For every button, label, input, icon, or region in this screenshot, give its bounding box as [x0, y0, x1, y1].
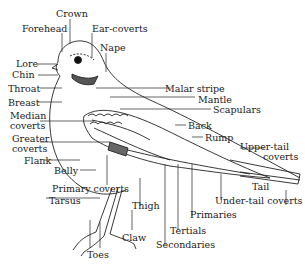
label-crown: Crown	[56, 9, 88, 19]
label-toes: Toes	[87, 250, 109, 260]
label-median-coverts-2: coverts	[10, 121, 45, 131]
label-primary-coverts: Primary coverts	[52, 184, 129, 194]
label-under-tail-coverts: Under-tail coverts	[215, 196, 302, 206]
label-greater-coverts-2: coverts	[12, 144, 47, 154]
label-nape: Nape	[100, 43, 126, 53]
label-chin: Chin	[12, 70, 35, 80]
label-secondaries: Secondaries	[156, 240, 215, 250]
label-scapulars: Scapulars	[213, 105, 261, 115]
label-upper-tail-coverts-2: coverts	[263, 152, 298, 162]
label-back: Back	[188, 121, 212, 131]
label-ear-coverts: Ear-coverts	[92, 24, 148, 34]
label-throat: Throat	[8, 84, 40, 94]
label-breast: Breast	[8, 98, 40, 108]
label-tarsus: Tarsus	[49, 196, 81, 206]
label-tail: Tail	[252, 182, 269, 192]
label-belly: Belly	[54, 166, 78, 176]
label-forehead: Forehead	[22, 24, 67, 34]
label-claw: Claw	[122, 233, 146, 243]
label-malar-stripe: Malar stripe	[165, 84, 225, 94]
label-rump: Rump	[205, 133, 233, 143]
label-thigh: Thigh	[132, 201, 160, 211]
label-flank: Flank	[24, 156, 51, 166]
label-lore: Lore	[16, 59, 38, 69]
label-tertials: Tertials	[170, 226, 206, 236]
label-primaries: Primaries	[190, 210, 237, 220]
